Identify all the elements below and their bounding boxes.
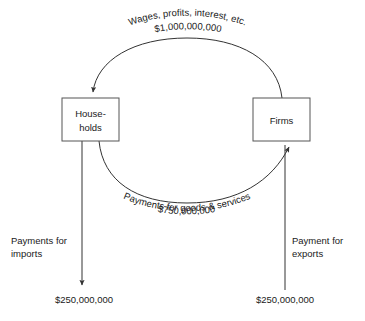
imports-label-line2: imports [11,248,42,259]
households-node[interactable]: House- holds [62,98,119,141]
imports-amount: $250,000,000 [55,294,113,305]
firms-label: Firms [270,115,294,126]
bottom-flow-description: Payments for goods & services [122,190,252,213]
exports-label-line2: exports [292,248,323,259]
households-label-line2: holds [79,122,102,133]
households-box [62,98,119,141]
exports-amount: $250,000,000 [256,294,314,305]
exports-label-line1: Payment for [292,235,343,246]
imports-label-group: Payments for imports [11,235,67,259]
circular-flow-diagram: House- holds Firms Wages, profits, inter… [0,0,365,321]
top-flow-arrow [93,38,282,98]
households-label-line1: House- [75,108,106,119]
diagram-canvas: House- holds Firms Wages, profits, inter… [0,0,365,321]
exports-label-group: Payment for exports [292,235,343,259]
top-flow-amount: $1,000,000,000 [153,20,222,34]
firms-node[interactable]: Firms [253,98,310,141]
imports-label-line1: Payments for [11,235,67,246]
